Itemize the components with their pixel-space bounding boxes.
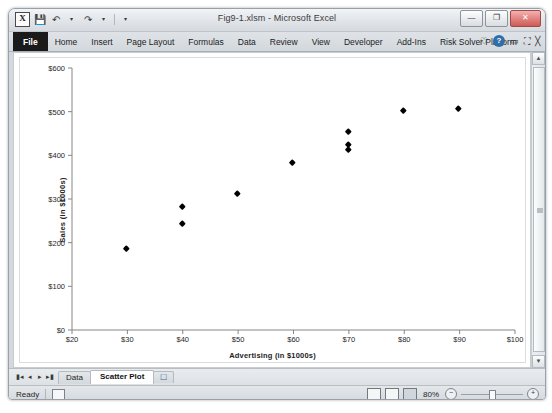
next-sheet-icon[interactable]: ▸ xyxy=(35,373,44,381)
chart-plot-svg xyxy=(20,58,525,362)
ribbon-tabs: File Home Insert Page Layout Formulas Da… xyxy=(13,32,524,51)
tab-view[interactable]: View xyxy=(305,32,337,51)
chart-y-axis-title: Sales (in $1000s) xyxy=(58,177,67,243)
tab-formulas[interactable]: Formulas xyxy=(181,32,230,51)
chart-sheet-area: Sales (in $1000s) Advertising (in $1000s… xyxy=(9,52,545,368)
scatter-chart[interactable]: Sales (in $1000s) Advertising (in $1000s… xyxy=(20,58,525,362)
x-tick-label: $80 xyxy=(398,335,411,344)
tab-developer[interactable]: Developer xyxy=(337,32,390,51)
sheet-tab-bar: ▮◂ ◂ ▸ ▸▮ Data Scatter Plot ☐ xyxy=(9,368,545,385)
close-window-icon[interactable]: ╳ xyxy=(535,34,540,48)
minimize-ribbon-icon[interactable]: ▭ xyxy=(510,34,519,48)
x-tick-label: $40 xyxy=(176,335,189,344)
y-tick-label: $300 xyxy=(48,195,65,204)
y-tick-label: $500 xyxy=(48,107,65,116)
scrollbar-grip-icon xyxy=(537,208,543,213)
y-tick-label: $600 xyxy=(48,64,65,73)
prev-sheet-icon[interactable]: ◂ xyxy=(25,373,34,381)
scrollbar-thumb[interactable] xyxy=(533,67,545,352)
minimize-button[interactable]: — xyxy=(460,10,483,27)
status-right-group: 80% − + xyxy=(367,386,539,400)
excel-window: X 💾 ↶ ▾ ↷ ▾ ▾ Fig9-1.xlsm - Microsoft Ex… xyxy=(8,8,546,400)
sheet-tab-data[interactable]: Data xyxy=(58,371,91,384)
help-icon[interactable]: ? xyxy=(493,35,505,47)
ribbon-right-icons: ♡ ? ▭ ⛶ ╳ xyxy=(480,34,540,48)
page-break-view-button[interactable] xyxy=(403,388,417,400)
zoom-slider-thumb[interactable] xyxy=(489,390,496,401)
y-tick-label: $200 xyxy=(48,238,65,247)
x-tick-label: $50 xyxy=(232,335,245,344)
scroll-up-icon[interactable]: ▲ xyxy=(532,52,545,65)
sheet-tab-scatter-plot[interactable]: Scatter Plot xyxy=(90,370,154,384)
restore-button[interactable]: ❐ xyxy=(485,10,508,27)
tab-home[interactable]: Home xyxy=(48,32,85,51)
tab-page-layout[interactable]: Page Layout xyxy=(120,32,182,51)
x-tick-label: $90 xyxy=(453,335,466,344)
vertical-scrollbar[interactable]: ▲ ▼ xyxy=(531,52,545,368)
scroll-down-icon[interactable]: ▼ xyxy=(532,355,545,368)
zoom-in-button[interactable]: + xyxy=(527,388,539,400)
sheet-nav-buttons: ▮◂ ◂ ▸ ▸▮ xyxy=(9,373,58,381)
y-tick-label: $400 xyxy=(48,151,65,160)
tab-insert[interactable]: Insert xyxy=(84,32,119,51)
chart-x-axis-title: Advertising (in $1000s) xyxy=(20,351,525,360)
chart-sheet-pane: Sales (in $1000s) Advertising (in $1000s… xyxy=(13,52,531,368)
page-layout-view-button[interactable] xyxy=(385,388,399,400)
ribbon-tab-bar: File Home Insert Page Layout Formulas Da… xyxy=(9,32,545,52)
tab-file[interactable]: File xyxy=(13,32,48,51)
y-tick-label: $100 xyxy=(48,282,65,291)
first-sheet-icon[interactable]: ▮◂ xyxy=(15,373,24,381)
chart-frame[interactable]: Sales (in $1000s) Advertising (in $1000s… xyxy=(19,57,526,363)
x-tick-label: $20 xyxy=(66,335,79,344)
status-divider xyxy=(45,389,46,399)
y-tick-label: $0 xyxy=(57,326,65,335)
x-tick-label: $60 xyxy=(287,335,300,344)
zoom-level-label: 80% xyxy=(423,390,439,399)
normal-view-button[interactable] xyxy=(367,388,381,400)
status-bar: Ready 80% − + xyxy=(9,385,545,400)
window-controls: — ❐ ✕ xyxy=(460,10,541,27)
title-bar: X 💾 ↶ ▾ ↷ ▾ ▾ Fig9-1.xlsm - Microsoft Ex… xyxy=(9,9,545,32)
zoom-slider[interactable] xyxy=(461,394,523,395)
ribbon-options-icon[interactable]: ♡ xyxy=(480,34,488,48)
new-sheet-icon[interactable]: ☐ xyxy=(153,371,174,383)
x-tick-label: $70 xyxy=(343,335,356,344)
tab-add-ins[interactable]: Add-Ins xyxy=(390,32,433,51)
x-tick-label: $100 xyxy=(507,335,524,344)
close-button[interactable]: ✕ xyxy=(510,10,541,27)
tab-review[interactable]: Review xyxy=(263,32,305,51)
record-macro-icon[interactable] xyxy=(52,389,65,400)
restore-window-icon[interactable]: ⛶ xyxy=(524,34,530,48)
zoom-out-button[interactable]: − xyxy=(445,388,457,400)
last-sheet-icon[interactable]: ▸▮ xyxy=(45,373,54,381)
status-mode-label: Ready xyxy=(9,390,39,399)
x-tick-label: $30 xyxy=(121,335,134,344)
tab-data[interactable]: Data xyxy=(231,32,263,51)
